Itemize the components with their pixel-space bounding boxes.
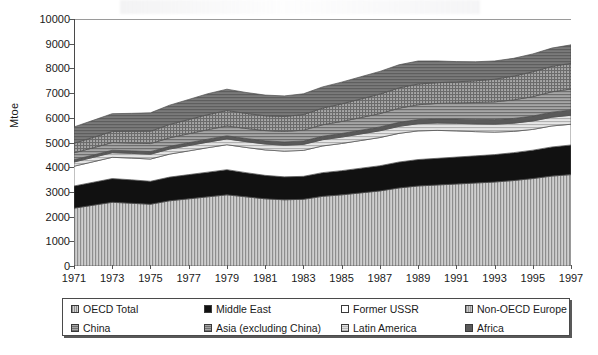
x-tick-mark — [495, 265, 496, 269]
chart-legend: OECD TotalMiddle EastFormer USSRNon-OECD… — [62, 298, 570, 336]
y-tick-label: 10000 — [24, 13, 70, 25]
legend-label: China — [83, 322, 110, 334]
legend-swatch-icon — [341, 324, 349, 332]
legend-swatch-icon — [71, 305, 79, 313]
y-tick-label: 4000 — [24, 161, 70, 173]
legend-swatch-icon — [204, 305, 212, 313]
y-tick-label: 8000 — [24, 62, 70, 74]
y-tick-mark — [69, 143, 74, 144]
x-tick-label: 1995 — [521, 272, 545, 284]
x-tick-mark — [112, 265, 113, 269]
y-tick-mark — [69, 118, 74, 119]
y-tick-label: 3000 — [24, 186, 70, 198]
y-tick-label: 6000 — [24, 112, 70, 124]
y-tick-mark — [69, 241, 74, 242]
legend-label: OECD Total — [83, 303, 138, 315]
y-tick-label: 7000 — [24, 87, 70, 99]
y-tick-mark — [69, 19, 74, 20]
x-tick-mark — [150, 265, 151, 269]
scan-artifact-top — [120, 0, 480, 14]
y-axis-title: Mtoe — [8, 103, 20, 128]
chart-page: Mtoe 01000200030004000500060007000800090… — [0, 0, 598, 355]
legend-item[interactable]: Non-OECD Europe — [465, 303, 575, 315]
y-tick-label: 5000 — [24, 137, 70, 149]
y-tick-mark — [69, 192, 74, 193]
x-tick-mark — [456, 265, 457, 269]
x-tick-label: 1991 — [444, 272, 468, 284]
x-tick-label: 1977 — [176, 272, 200, 284]
y-tick-label: 0 — [24, 260, 70, 272]
x-tick-label: 1989 — [406, 272, 430, 284]
legend-label: Africa — [477, 322, 504, 334]
legend-item[interactable]: Asia (excluding China) — [204, 322, 341, 334]
legend-item[interactable]: OECD Total — [71, 303, 204, 315]
x-tick-label: 1993 — [482, 272, 506, 284]
legend-swatch-icon — [465, 324, 473, 332]
x-tick-mark — [342, 265, 343, 269]
y-tick-mark — [69, 217, 74, 218]
x-tick-label: 1985 — [329, 272, 353, 284]
y-tick-label: 1000 — [24, 235, 70, 247]
y-tick-label: 2000 — [24, 211, 70, 223]
stacked-area-svg — [74, 19, 571, 266]
y-tick-label: 9000 — [24, 38, 70, 50]
legend-label: Asia (excluding China) — [216, 322, 321, 334]
x-tick-label: 1971 — [62, 272, 86, 284]
x-tick-label: 1981 — [253, 272, 277, 284]
x-tick-label: 1975 — [138, 272, 162, 284]
legend-item[interactable]: Former USSR — [341, 303, 465, 315]
plot-area — [74, 19, 571, 266]
x-tick-mark — [533, 265, 534, 269]
legend-label: Non-OECD Europe — [477, 303, 567, 315]
x-tick-mark — [303, 265, 304, 269]
legend-swatch-icon — [204, 324, 212, 332]
legend-item[interactable]: Africa — [465, 322, 575, 334]
x-tick-mark — [418, 265, 419, 269]
x-tick-mark — [571, 265, 572, 269]
legend-item[interactable]: Latin America — [341, 322, 465, 334]
legend-label: Latin America — [353, 322, 417, 334]
y-tick-mark — [69, 167, 74, 168]
legend-item[interactable]: China — [71, 322, 204, 334]
x-tick-mark — [265, 265, 266, 269]
x-tick-label: 1973 — [100, 272, 124, 284]
x-tick-label: 1983 — [291, 272, 315, 284]
x-tick-label: 1987 — [368, 272, 392, 284]
x-tick-mark — [189, 265, 190, 269]
legend-label: Middle East — [216, 303, 271, 315]
x-tick-mark — [380, 265, 381, 269]
x-tick-mark — [74, 265, 75, 269]
legend-label: Former USSR — [353, 303, 419, 315]
legend-item[interactable]: Middle East — [204, 303, 341, 315]
x-tick-label: 1997 — [559, 272, 583, 284]
legend-swatch-icon — [465, 305, 473, 313]
legend-swatch-icon — [71, 324, 79, 332]
y-tick-mark — [69, 93, 74, 94]
x-tick-label: 1979 — [215, 272, 239, 284]
y-tick-mark — [69, 44, 74, 45]
legend-swatch-icon — [341, 305, 349, 313]
y-tick-mark — [69, 68, 74, 69]
x-tick-mark — [227, 265, 228, 269]
